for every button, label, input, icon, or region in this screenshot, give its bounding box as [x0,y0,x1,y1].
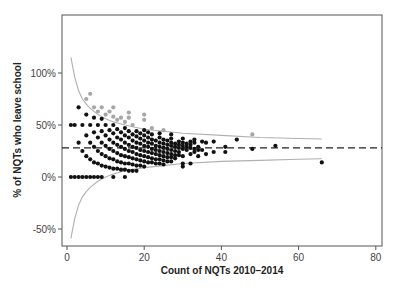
data-point [115,151,119,155]
data-point [100,175,104,179]
data-point [200,140,204,144]
data-point [146,135,150,139]
data-point [123,168,127,172]
data-point [131,162,135,166]
data-point [158,135,162,139]
y-tick-label: -50% [33,224,56,235]
data-point [196,154,200,158]
data-point [158,161,162,165]
y-tick-label: 50% [36,120,56,131]
data-point [165,143,169,147]
data-point [123,120,127,124]
data-point [111,175,115,179]
x-tick-label: 60 [293,252,305,263]
data-point [77,105,81,109]
data-point [123,141,127,145]
data-point [138,142,142,146]
x-tick-label: 40 [216,252,228,263]
data-point [80,175,84,179]
data-point [92,160,96,164]
scatter-points [69,92,324,179]
data-point [150,138,154,142]
data-point [138,164,142,168]
data-point [92,116,96,120]
data-point [96,175,100,179]
data-point [84,133,88,137]
data-point [96,123,100,127]
data-point [161,158,165,162]
data-point [154,139,158,143]
data-point [142,128,146,132]
data-point [119,130,123,134]
data-point [142,149,146,153]
data-point [146,150,150,154]
data-point [158,153,162,157]
data-point [161,150,165,154]
data-point [169,141,173,145]
data-point [115,143,119,147]
data-point [204,152,208,156]
data-point [188,140,192,144]
data-point [150,126,154,130]
data-point [150,132,154,136]
y-axis: -50%0%50%100% [30,68,62,235]
data-point [146,155,150,159]
data-point [104,165,108,169]
data-point [107,128,111,132]
data-point [127,110,131,114]
data-point [104,133,108,137]
data-point [188,161,192,165]
data-point [123,133,127,137]
data-point [123,154,127,158]
data-point [131,123,135,127]
data-point [177,140,181,144]
data-point [111,141,115,145]
data-point [104,144,108,148]
data-point [88,175,92,179]
funnel-upper-limit [71,57,322,139]
data-point [154,144,158,148]
data-point [104,113,108,117]
data-point [161,138,165,142]
data-point [181,154,185,158]
data-point [181,136,185,140]
data-point [212,150,216,154]
x-tick-label: 80 [370,252,382,263]
data-point [96,161,100,165]
data-point [104,123,108,127]
data-point [134,152,138,156]
x-tick-label: 0 [64,252,70,263]
data-point [92,130,96,134]
data-point [142,154,146,158]
data-point [134,146,138,150]
data-point [192,138,196,142]
data-point [131,169,135,173]
data-point [111,149,115,153]
data-point [161,162,165,166]
data-point [131,145,135,149]
data-point [80,149,84,153]
data-point [146,160,150,164]
data-point [138,136,142,140]
data-point [88,123,92,127]
data-point [138,148,142,152]
data-point [92,145,96,149]
data-point [169,159,173,163]
data-point [161,128,165,132]
data-point [107,147,111,151]
data-point [100,117,104,121]
data-point [161,146,165,150]
data-point [127,116,131,120]
data-point [131,150,135,154]
data-point [169,136,173,140]
data-point [69,175,73,179]
data-point [127,155,131,159]
data-point [123,126,127,130]
data-point [158,131,162,135]
data-point [142,144,146,148]
data-point [150,142,154,146]
data-point [131,139,135,143]
data-point [119,145,123,149]
data-point [115,167,119,171]
data-point [169,132,173,136]
